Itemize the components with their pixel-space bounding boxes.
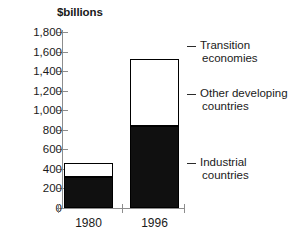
plot-area: 1,8001,6001,4001,2001,0008006004002000 1… (0, 0, 307, 241)
bar-segment (64, 177, 113, 208)
y-tick-label: 1,400 (33, 65, 62, 77)
x-tick-label: 1980 (59, 216, 119, 230)
legend-label-line1: Transition (200, 39, 250, 51)
bar-chart: $billions 1,8001,6001,4001,2001,00080060… (0, 0, 307, 241)
legend-label: Other developingcountries (200, 87, 288, 112)
legend-label-line2: economies (200, 52, 258, 65)
bar-segment (130, 126, 179, 208)
y-tick-label: 400 (43, 163, 62, 175)
y-tick-label: 800 (43, 124, 62, 136)
legend-label: Transitioneconomies (200, 39, 258, 64)
x-tick-mark (122, 204, 123, 213)
y-tick-label: 1,600 (33, 46, 62, 58)
legend-leader-line (187, 94, 196, 95)
legend-label-line1: Industrial (200, 156, 247, 168)
legend-label-line2: countries (200, 100, 288, 113)
y-axis-line (62, 30, 63, 209)
bar-segment (64, 163, 113, 177)
y-tick-label: 200 (43, 182, 62, 194)
x-tick-mark (58, 204, 59, 213)
bar-segment (130, 59, 179, 125)
legend-leader-line (187, 163, 196, 164)
x-axis-line (57, 208, 184, 209)
legend-label-line1: Other developing (200, 87, 288, 99)
y-tick-label: 1,000 (33, 104, 62, 116)
y-tick-label: 1,200 (33, 85, 62, 97)
x-tick-label: 1996 (125, 216, 185, 230)
x-tick-mark (184, 204, 185, 213)
y-tick-label: 600 (43, 143, 62, 155)
legend-label-line2: countries (200, 169, 249, 182)
y-tick-label: 1,800 (33, 26, 62, 38)
legend-label: Industrialcountries (200, 156, 249, 181)
legend-leader-line (187, 46, 196, 47)
